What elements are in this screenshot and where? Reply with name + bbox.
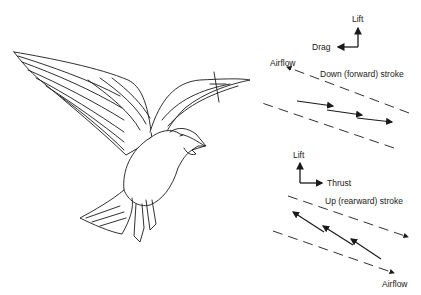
- top-airflow-lines: [262, 67, 409, 148]
- top-lift-label: Lift: [352, 14, 363, 24]
- bottom-lift-label: Lift: [293, 150, 304, 160]
- upstroke-label: Up (rearward) stroke: [325, 196, 403, 206]
- top-force-axes: [338, 28, 358, 47]
- bottom-airflow-label: Airflow: [382, 279, 408, 289]
- seagull-illustration: [14, 52, 250, 242]
- drag-label: Drag: [312, 42, 330, 52]
- bottom-force-axes: [300, 163, 322, 183]
- top-airflow-label: Airflow: [270, 58, 296, 68]
- bottom-airflow-lines: [273, 196, 408, 273]
- downstroke-arrows: [297, 101, 392, 122]
- thrust-label: Thrust: [327, 178, 351, 188]
- downstroke-label: Down (forward) stroke: [320, 69, 404, 79]
- diagram-canvas: [0, 0, 421, 295]
- upstroke-arrows: [293, 212, 381, 259]
